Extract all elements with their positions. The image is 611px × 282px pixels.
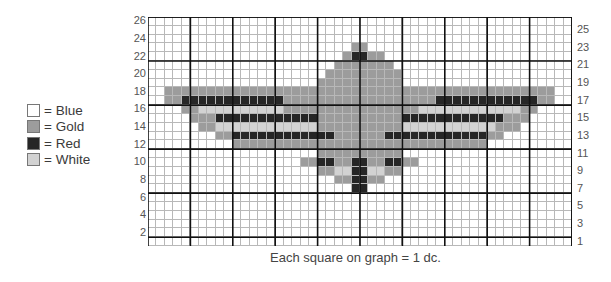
grid-cell	[250, 87, 258, 96]
grid-cell	[538, 17, 546, 26]
grid-cell	[148, 61, 156, 70]
grid-cell	[394, 114, 402, 123]
grid-cell	[233, 167, 241, 176]
grid-cell	[250, 202, 258, 211]
grid-cell	[335, 237, 343, 246]
grid-cell	[521, 237, 529, 246]
grid-cell	[530, 61, 538, 70]
grid-cell	[258, 114, 266, 123]
grid-cell	[496, 105, 504, 114]
grid-cell	[292, 17, 300, 26]
grid-cell	[190, 149, 198, 158]
grid-cell	[411, 158, 419, 167]
grid-cell	[148, 184, 156, 193]
grid-cell	[555, 211, 563, 220]
grid-cell	[462, 140, 470, 149]
grid-cell	[224, 26, 232, 35]
grid-cell	[190, 237, 198, 246]
row-number: 16	[130, 102, 146, 114]
grid-cell	[428, 26, 436, 35]
grid-cell	[530, 79, 538, 88]
grid-cell	[513, 43, 521, 52]
grid-cell	[479, 149, 487, 158]
grid-cell	[547, 105, 555, 114]
grid-cell	[190, 132, 198, 141]
grid-cell	[360, 158, 368, 167]
grid-cell	[377, 184, 385, 193]
swatch-gold-icon	[27, 120, 40, 133]
grid-cell	[224, 140, 232, 149]
grid-cell	[470, 17, 478, 26]
grid-cell	[284, 123, 292, 132]
grid-cell	[538, 202, 546, 211]
grid-cell	[148, 114, 156, 123]
grid-cell	[301, 158, 309, 167]
legend-item-white: = White	[27, 152, 90, 169]
grid-cell	[207, 202, 215, 211]
grid-cell	[207, 70, 215, 79]
grid-cell	[275, 123, 283, 132]
grid-cell	[173, 61, 181, 70]
grid-cell	[284, 193, 292, 202]
grid-cell	[199, 35, 207, 44]
grid-cell	[547, 211, 555, 220]
grid-cell	[335, 167, 343, 176]
grid-cell	[513, 132, 521, 141]
grid-cell	[555, 237, 563, 246]
grid-cell	[470, 105, 478, 114]
grid-cell	[360, 26, 368, 35]
grid-cell	[538, 96, 546, 105]
grid-cell	[190, 105, 198, 114]
grid-cell	[402, 114, 410, 123]
grid-cell	[309, 132, 317, 141]
grid-cell	[462, 61, 470, 70]
grid-cell	[352, 123, 360, 132]
grid-cell	[521, 26, 529, 35]
grid-cell	[224, 35, 232, 44]
grid-cell	[275, 167, 283, 176]
grid-cell	[156, 140, 164, 149]
grid-cell	[173, 167, 181, 176]
grid-cell	[564, 79, 572, 88]
grid-cell	[547, 52, 555, 61]
grid-cell	[233, 114, 241, 123]
grid-cell	[453, 87, 461, 96]
grid-cell	[148, 70, 156, 79]
grid-cell	[233, 96, 241, 105]
grid-cell	[385, 202, 393, 211]
grid-cell	[555, 123, 563, 132]
grid-cell	[182, 52, 190, 61]
grid-cell	[224, 237, 232, 246]
grid-cell	[402, 149, 410, 158]
row-number: 20	[130, 67, 146, 79]
grid-cell	[530, 17, 538, 26]
grid-cell	[555, 61, 563, 70]
grid-cell	[267, 140, 275, 149]
grid-cell	[377, 17, 385, 26]
grid-cell	[513, 237, 521, 246]
grid-cell	[436, 105, 444, 114]
grid-cell	[199, 237, 207, 246]
grid-cell	[368, 202, 376, 211]
grid-cell	[275, 87, 283, 96]
grid-cell	[343, 35, 351, 44]
grid-cell	[224, 167, 232, 176]
grid-cell	[267, 184, 275, 193]
grid-cell	[555, 158, 563, 167]
grid-cell	[326, 202, 334, 211]
grid-cell	[216, 149, 224, 158]
grid-cell	[292, 123, 300, 132]
grid-cell	[199, 17, 207, 26]
grid-cell	[453, 220, 461, 229]
grid-cell	[394, 220, 402, 229]
swatch-blue-icon	[27, 104, 40, 117]
row-number: 17	[577, 94, 589, 106]
grid-cell	[538, 114, 546, 123]
grid-cell	[521, 158, 529, 167]
grid-cell	[445, 193, 453, 202]
grid-cell	[173, 123, 181, 132]
grid-cell	[309, 52, 317, 61]
grid-cell	[216, 220, 224, 229]
grid-cell	[530, 43, 538, 52]
grid-cell	[504, 52, 512, 61]
